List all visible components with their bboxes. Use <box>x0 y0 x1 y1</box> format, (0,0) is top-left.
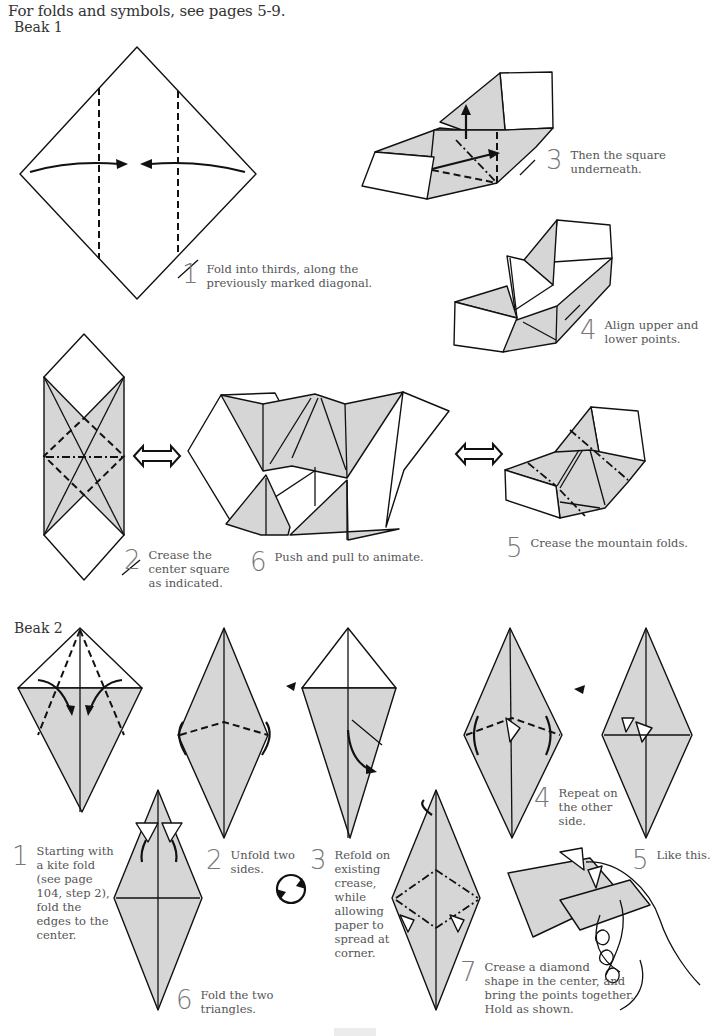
beak2-step1-diagram <box>18 628 142 812</box>
beak2-step-4: 4 Repeat onthe otherside. <box>534 786 618 828</box>
beak2-step-7: 7 Crease a diamond shape in the center, … <box>460 960 634 1016</box>
page-footer-tab <box>334 1028 376 1036</box>
beak2-step3-diagram <box>302 628 396 838</box>
beak2-step2-diagram <box>178 628 296 838</box>
beak2-step-6: 6 Fold the twotriangles. <box>176 988 273 1016</box>
beak2-step-3: 3 Refold on existing crease, while allow… <box>310 848 390 960</box>
beak2-step-5: 5 Like this. <box>632 848 711 872</box>
beak2-step-2: 2 Unfold twosides. <box>206 848 295 876</box>
turn-over-circle-arrow-icon <box>276 875 306 903</box>
beak2-step6-diagram <box>114 790 202 1010</box>
beak2-step-1: 1 Starting with a kite fold (see page 10… <box>12 844 114 942</box>
